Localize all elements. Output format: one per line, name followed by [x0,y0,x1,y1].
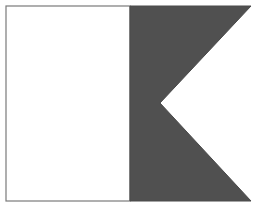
signal-flag [0,0,259,206]
flag-fly-swallowtail [130,6,251,201]
flag-hoist-white [6,6,130,201]
